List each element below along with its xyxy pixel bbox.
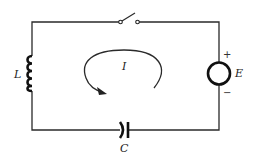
circuit-diagram: L + − E C I	[0, 0, 255, 161]
switch-contact-left	[119, 20, 123, 24]
source-positive-sign: +	[223, 49, 231, 60]
capacitor: C	[120, 122, 129, 155]
current-indicator: I	[85, 50, 162, 95]
wire-bottom-right	[128, 85, 219, 130]
wire-top-right	[139, 22, 219, 62]
source-circle-icon	[208, 63, 230, 85]
wires	[32, 22, 219, 130]
switch-contact-right	[136, 20, 140, 24]
wire-bottom-left	[32, 91, 120, 130]
switch	[119, 13, 140, 24]
capacitor-label: C	[120, 142, 129, 155]
voltage-source: + − E	[208, 49, 243, 98]
inductor-coil-icon	[28, 56, 33, 91]
source-negative-sign: −	[223, 87, 231, 98]
inductor: L	[13, 56, 32, 91]
capacitor-curved-plate	[120, 122, 123, 138]
switch-blade	[122, 13, 135, 21]
current-arrowhead-icon	[97, 87, 107, 95]
current-label: I	[121, 60, 127, 73]
source-label: E	[234, 67, 243, 80]
inductor-label: L	[13, 68, 21, 81]
